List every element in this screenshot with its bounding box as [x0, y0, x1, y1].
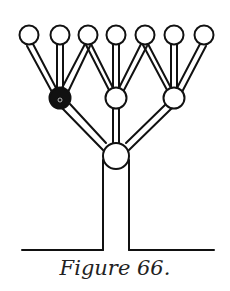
top-node: [20, 26, 39, 45]
middle-node: [106, 88, 127, 109]
top-node: [165, 26, 184, 45]
figure-caption: Figure 66.: [0, 256, 230, 280]
top-node: [107, 26, 126, 45]
root-node: [103, 143, 129, 169]
top-node: [195, 26, 214, 45]
branch-group-center: [86, 44, 147, 90]
top-node: [51, 26, 70, 45]
trunk: [22, 160, 214, 250]
top-node: [136, 26, 155, 45]
branch-group-right: [143, 44, 206, 92]
top-node: [79, 26, 98, 45]
tree-diagram: [0, 0, 230, 291]
branch-group-left: [27, 44, 90, 92]
middle-node: [164, 88, 185, 109]
